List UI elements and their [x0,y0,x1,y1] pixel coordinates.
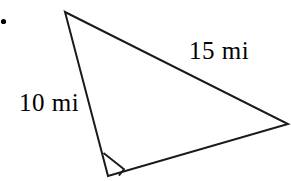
side-label-leg: 10 mi [19,90,79,115]
geometry-figure: 15 mi 10 mi [0,0,291,181]
list-bullet-icon [1,19,6,24]
side-label-hypotenuse: 15 mi [189,38,249,63]
triangle-outline [65,12,288,176]
